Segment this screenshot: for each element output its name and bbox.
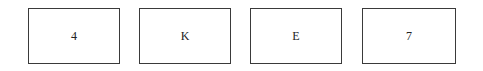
card-label: 7 — [406, 30, 412, 42]
card-7: 7 — [362, 8, 456, 64]
card-label: E — [292, 30, 299, 42]
card-4: 4 — [28, 8, 120, 64]
card-label: 4 — [71, 30, 77, 42]
card-label: K — [181, 30, 190, 42]
card-e: E — [250, 8, 342, 64]
card-k: K — [139, 8, 231, 64]
